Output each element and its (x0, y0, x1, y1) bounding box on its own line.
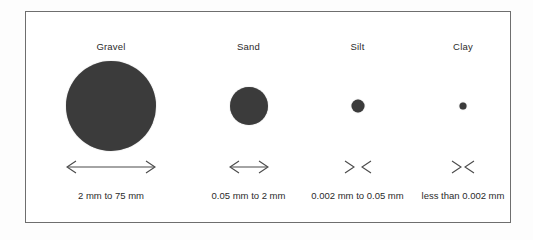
size-arrow-clay (414, 157, 512, 183)
column-title-gravel: Gravel (26, 41, 196, 52)
column-title-silt: Silt (301, 41, 414, 52)
particle-circle-silt (351, 100, 364, 113)
range-label-clay: less than 0.002 mm (414, 190, 512, 201)
range-label-silt: 0.002 mm to 0.05 mm (301, 190, 414, 201)
particle-area-sand (196, 60, 301, 160)
double-arrow-inward-icon (447, 157, 479, 177)
particle-circle-sand (230, 87, 268, 125)
size-arrow-sand (196, 157, 301, 183)
scanned-page: Gravel 2 mm to 75 mm Sand (0, 0, 533, 240)
double-arrow-outward-icon (225, 157, 273, 177)
particle-area-silt (301, 60, 414, 160)
particle-circle-clay (460, 103, 467, 110)
particle-column-gravel: Gravel 2 mm to 75 mm (26, 12, 196, 224)
range-label-sand: 0.05 mm to 2 mm (196, 190, 301, 201)
figure-frame: Gravel 2 mm to 75 mm Sand (25, 11, 511, 223)
column-title-sand: Sand (196, 41, 301, 52)
column-title-clay: Clay (414, 41, 512, 52)
particle-column-sand: Sand 0.05 mm to 2 mm (196, 12, 301, 224)
double-arrow-outward-icon (61, 157, 161, 177)
particle-area-gravel (26, 60, 196, 160)
double-arrow-inward-icon (338, 157, 378, 177)
particle-area-clay (414, 60, 512, 160)
particle-column-clay: Clay less than 0.002 mm (414, 12, 512, 224)
particle-circle-gravel (66, 61, 156, 151)
size-arrow-silt (301, 157, 414, 183)
range-label-gravel: 2 mm to 75 mm (26, 190, 196, 201)
particle-column-silt: Silt 0.002 mm to 0.05 mm (301, 12, 414, 224)
size-arrow-gravel (26, 157, 196, 183)
